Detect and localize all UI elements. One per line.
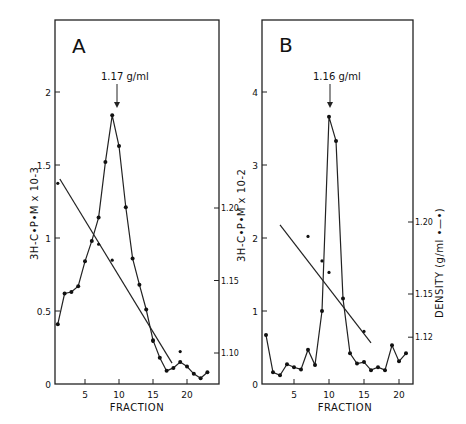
density-point bbox=[56, 182, 59, 185]
y2-tick-label: 1.20 bbox=[415, 218, 433, 227]
cpm-point bbox=[278, 373, 282, 377]
y-tick-label: 2 bbox=[252, 234, 258, 244]
panel-b-x-label: FRACTION bbox=[318, 402, 372, 413]
panel-a-x-label: FRACTION bbox=[110, 402, 164, 413]
cpm-point bbox=[90, 239, 94, 243]
cpm-point bbox=[362, 360, 366, 364]
cpm-point bbox=[56, 322, 60, 326]
density-point bbox=[320, 259, 323, 262]
density-fit-line bbox=[60, 179, 172, 363]
y2-tick-label: 1.15 bbox=[221, 277, 239, 286]
cpm-point bbox=[348, 351, 352, 355]
cpm-point bbox=[158, 356, 162, 360]
panel-a-y-label: 3H-C•P•M x 10-3 bbox=[29, 167, 40, 260]
cpm-point bbox=[355, 362, 359, 366]
y-tick-label: 1 bbox=[45, 234, 51, 244]
cpm-point bbox=[264, 333, 268, 337]
x-tick-label: 10 bbox=[113, 390, 125, 400]
panel-b-y-label: 3H-C•P•M x 10-2 bbox=[236, 169, 247, 262]
cpm-point bbox=[369, 368, 373, 372]
arrow-head-icon bbox=[327, 102, 333, 108]
cpm-point bbox=[76, 284, 80, 288]
density-fit-line bbox=[280, 225, 371, 343]
cpm-point bbox=[192, 372, 196, 376]
x-tick-label: 10 bbox=[323, 390, 335, 400]
cpm-point bbox=[271, 370, 275, 374]
panel-b-label: B bbox=[279, 33, 293, 57]
cpm-point bbox=[63, 291, 67, 295]
cpm-point bbox=[404, 351, 408, 355]
cpm-point bbox=[165, 369, 169, 373]
y-tick-label: 0.5 bbox=[37, 307, 51, 317]
cpm-point bbox=[313, 363, 317, 367]
density-point bbox=[97, 243, 100, 246]
density-point bbox=[111, 259, 114, 262]
cpm-point bbox=[83, 259, 87, 263]
cpm-point bbox=[131, 256, 135, 260]
cpm-point bbox=[320, 309, 324, 313]
y-tick-label: 1 bbox=[252, 307, 258, 317]
density-point bbox=[151, 340, 154, 343]
y2-tick-label: 1.15 bbox=[415, 290, 433, 299]
panel-b-peak-annotation: 1.16 g/ml bbox=[313, 71, 361, 82]
cpm-point bbox=[137, 283, 141, 287]
x-tick-label: 5 bbox=[291, 390, 297, 400]
density-point bbox=[306, 235, 309, 238]
arrow-head-icon bbox=[114, 102, 120, 108]
density-point bbox=[362, 330, 365, 333]
cpm-line bbox=[58, 115, 208, 378]
cpm-point bbox=[144, 308, 148, 312]
x-tick-label: 20 bbox=[181, 390, 193, 400]
y-tick-label: 0 bbox=[45, 380, 51, 390]
cpm-line bbox=[266, 117, 406, 375]
cpm-point bbox=[185, 364, 189, 368]
cpm-point bbox=[124, 205, 128, 209]
cpm-point bbox=[376, 365, 380, 369]
cpm-point bbox=[199, 376, 203, 380]
cpm-point bbox=[383, 368, 387, 372]
panel-a-peak-annotation: 1.17 g/ml bbox=[101, 71, 149, 82]
cpm-point bbox=[299, 367, 303, 371]
cpm-point bbox=[341, 297, 345, 301]
y-tick-label: 2 bbox=[45, 88, 51, 98]
y-tick-label: 0 bbox=[252, 380, 258, 390]
cpm-point bbox=[69, 290, 73, 294]
panel-b-y2-label: DENSITY (g/ml •—•) bbox=[434, 208, 445, 318]
y-tick-label: 3 bbox=[252, 161, 258, 171]
cpm-point bbox=[110, 113, 114, 117]
x-tick-label: 5 bbox=[82, 390, 88, 400]
cpm-point bbox=[327, 115, 331, 119]
y2-tick-label: 1.12 bbox=[415, 333, 433, 342]
density-point bbox=[179, 350, 182, 353]
x-tick-label: 15 bbox=[147, 390, 158, 400]
cpm-point bbox=[205, 370, 209, 374]
cpm-point bbox=[103, 160, 107, 164]
cpm-point bbox=[306, 348, 310, 352]
cpm-point bbox=[292, 365, 296, 369]
cpm-point bbox=[171, 366, 175, 370]
cpm-point bbox=[285, 362, 289, 366]
y2-tick-label: 1.10 bbox=[221, 349, 239, 358]
y-tick-label: 4 bbox=[252, 88, 258, 98]
cpm-point bbox=[390, 343, 394, 347]
figure: A 00.511.52 5101520 1.101.151.20 1.17 g/… bbox=[0, 0, 466, 424]
x-tick-label: 20 bbox=[393, 390, 405, 400]
cpm-point bbox=[97, 216, 101, 220]
cpm-point bbox=[334, 139, 338, 143]
panel-b: B 01234 5101520 1.121.151.20 1.16 g/ml F… bbox=[236, 20, 445, 413]
cpm-point bbox=[397, 359, 401, 363]
cpm-point bbox=[117, 144, 121, 148]
density-point bbox=[327, 271, 330, 274]
panel-a-label: A bbox=[72, 34, 86, 58]
panel-a: A 00.511.52 5101520 1.101.151.20 1.17 g/… bbox=[29, 20, 239, 413]
x-tick-label: 15 bbox=[358, 390, 369, 400]
cpm-point bbox=[178, 360, 182, 364]
